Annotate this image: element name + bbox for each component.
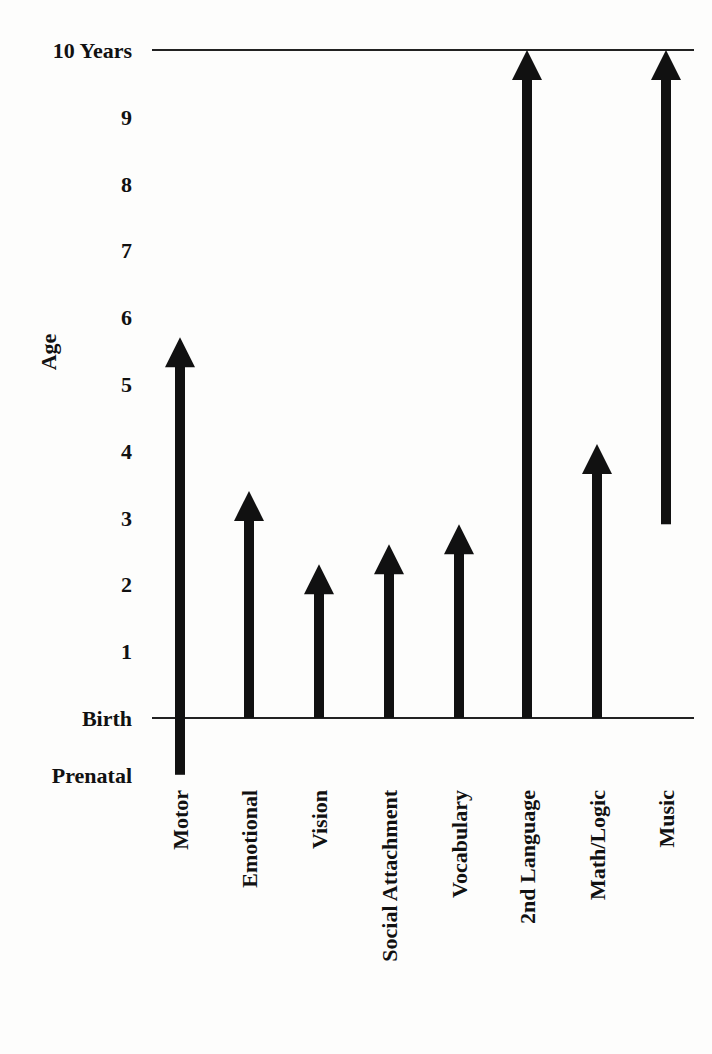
arrow-vision (304, 564, 334, 718)
arrow-emotional (234, 491, 264, 718)
category-labels: MotorEmotionalVisionSocial AttachmentVoc… (168, 789, 679, 961)
category-label: Music (654, 790, 679, 848)
y-tick-label: Birth (82, 706, 132, 731)
y-tick-label: 8 (121, 172, 132, 197)
y-tick-label: 7 (121, 238, 132, 263)
y-tick-label: 2 (121, 572, 132, 597)
reference-lines (152, 50, 694, 718)
arrow-vocabulary (444, 524, 474, 718)
y-tick-label: 6 (121, 305, 132, 330)
category-label: Motor (168, 790, 193, 850)
category-label: Emotional (237, 790, 262, 888)
y-tick-label: 9 (121, 105, 132, 130)
y-tick-label: Prenatal (52, 763, 132, 788)
y-axis-ticks: PrenatalBirth12345678910 Years (52, 38, 133, 788)
arrow-2nd-language (512, 50, 542, 718)
development-windows-chart: Age PrenatalBirth12345678910 Years Motor… (0, 0, 712, 1054)
y-tick-label: 10 Years (53, 38, 133, 63)
arrow-math-logic (582, 444, 612, 718)
arrows (165, 50, 681, 775)
arrow-music (651, 50, 681, 524)
arrow-motor (165, 337, 195, 775)
category-label: Social Attachment (377, 789, 402, 961)
y-axis-title: Age (36, 333, 61, 370)
category-label: Math/Logic (585, 790, 610, 900)
y-tick-label: 3 (121, 506, 132, 531)
category-label: Vocabulary (447, 790, 472, 898)
category-label: Vision (307, 790, 332, 849)
category-label: 2nd Language (515, 790, 540, 924)
arrow-social-attachment (374, 544, 404, 718)
y-tick-label: 5 (121, 372, 132, 397)
y-tick-label: 1 (121, 639, 132, 664)
y-tick-label: 4 (121, 439, 132, 464)
